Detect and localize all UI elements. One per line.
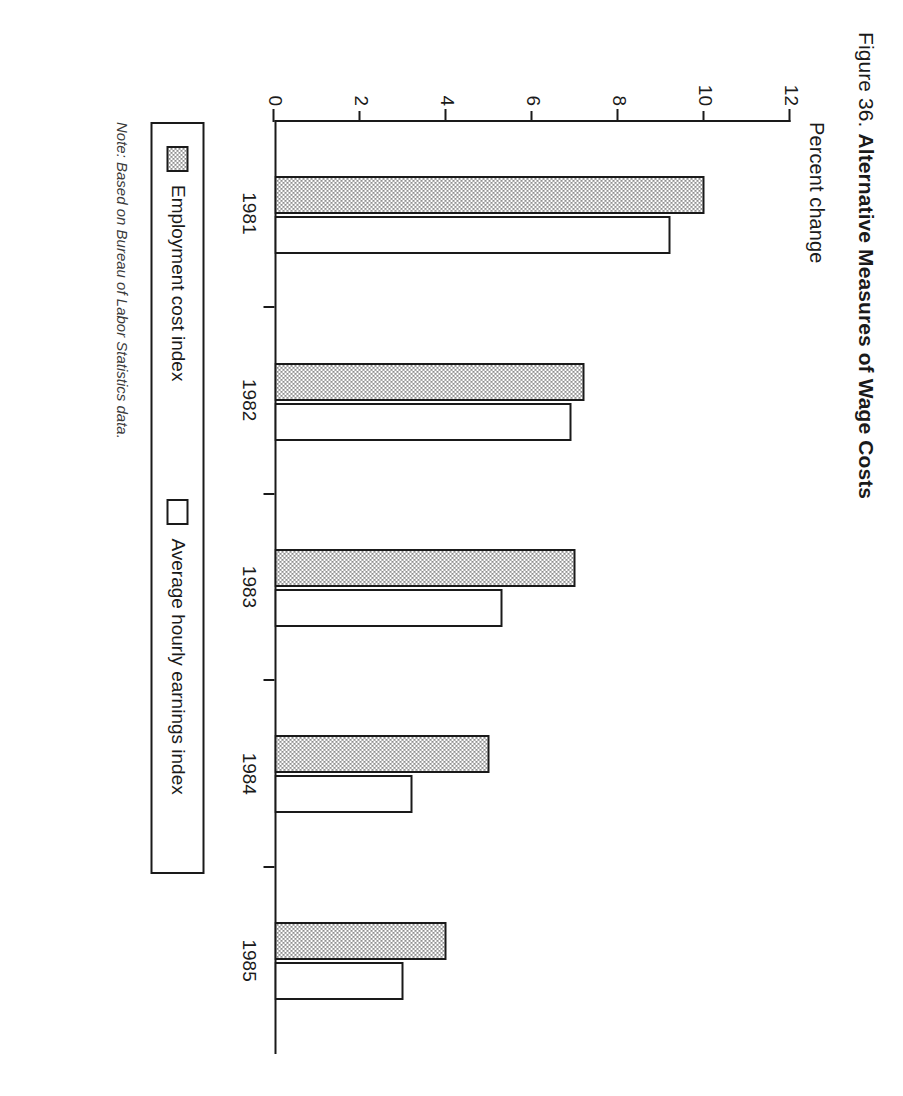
bar-1981-ahe [274,216,670,254]
y-tick-2 [358,111,360,122]
bar-1984-ahe [274,775,412,813]
legend-label-employment-cost-index: Employment cost index [166,185,188,381]
y-tick-6 [530,111,532,122]
bar-group-1982 [274,308,790,494]
y-axis-title: Percent change [804,122,827,1068]
bar-group-1981 [274,122,790,308]
bar-group-container [274,122,790,1054]
rotated-page-stage: Figure 36. Alternative Measures of Wage … [0,0,903,1096]
x-tick-2 [263,493,274,495]
y-tick-label-8: 8 [607,95,629,106]
legend-item-employment-cost-index: Employment cost index [166,146,188,381]
y-tick-label-0: 0 [263,95,285,106]
bar-group-1985 [274,868,790,1054]
legend-item-average-hourly-earnings-index: Average hourly earnings index [166,499,188,794]
y-tick-8 [616,109,618,122]
bar-1982-eci [274,363,584,401]
bar-1982-ahe [274,403,571,441]
bar-1983-eci [274,549,575,587]
y-tick-10 [702,111,704,122]
y-tick-label-6: 6 [521,95,543,106]
figure-number: Figure 36. [854,32,877,128]
plot-area: 024681012 19811982198319841985 [230,50,790,1068]
bar-1984-eci [274,735,489,773]
bar-group-1983 [274,495,790,681]
y-tick-label-4: 4 [435,95,457,106]
white-swatch-icon [166,499,188,525]
plot-canvas: 024681012 [274,120,790,1054]
x-tick-1 [263,306,274,308]
y-tick-label-2: 2 [349,95,371,106]
bar-group-1984 [274,681,790,867]
y-tick-4 [444,109,446,122]
bar-1983-ahe [274,589,502,627]
legend: Employment cost index Average hourly ear… [150,122,204,874]
bar-1981-eci [274,176,704,214]
x-tick-3 [263,679,274,681]
x-tick-label-1982: 1982 [237,379,259,421]
x-tick-label-1983: 1983 [237,566,259,608]
legend-label-average-hourly-earnings-index: Average hourly earnings index [166,538,188,794]
x-tick-label-1984: 1984 [237,753,259,795]
y-tick-label-10: 10 [693,85,715,106]
x-tick-label-1981: 1981 [237,192,259,234]
figure-title: Alternative Measures of Wage Costs [854,134,877,500]
x-tick-group: 19811982198319841985 [230,120,274,1054]
x-tick-4 [263,866,274,868]
bar-1985-eci [274,922,446,960]
source-note: Note: Based on Bureau of Labor Statistic… [113,122,130,1068]
figure-panel: Figure 36. Alternative Measures of Wage … [0,0,903,1096]
y-tick-12 [788,109,790,122]
figure-caption: Figure 36. Alternative Measures of Wage … [853,32,877,1068]
y-tick-label-12: 12 [779,85,801,106]
bar-1985-ahe [274,962,403,1000]
x-tick-label-1985: 1985 [237,939,259,981]
shaded-swatch-icon [166,146,188,172]
